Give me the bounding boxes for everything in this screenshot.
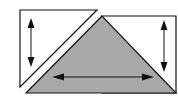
dissection-diagram (0, 0, 178, 101)
